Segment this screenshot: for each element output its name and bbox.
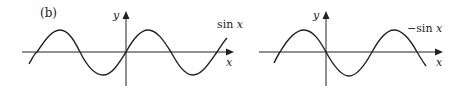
function-label: −sin x	[407, 22, 443, 35]
panel-label: (b)	[40, 6, 57, 20]
y-axis-label: y	[112, 9, 120, 22]
x-axis-arrow-icon	[435, 49, 443, 56]
x-axis-label: x	[436, 56, 443, 69]
graph-sin: y x sin x	[22, 9, 244, 86]
negative-sine-curve	[274, 30, 426, 76]
figure-canvas: (b) y x sin x y x −sin x	[0, 0, 459, 90]
function-label: sin x	[217, 18, 244, 31]
y-axis-label: y	[312, 9, 320, 22]
y-axis-arrow-icon	[323, 11, 330, 19]
y-axis-arrow-icon	[123, 11, 130, 19]
x-axis-arrow-icon	[226, 49, 234, 56]
x-axis-label: x	[226, 56, 233, 69]
graph-neg-sin: y x −sin x	[259, 9, 443, 86]
